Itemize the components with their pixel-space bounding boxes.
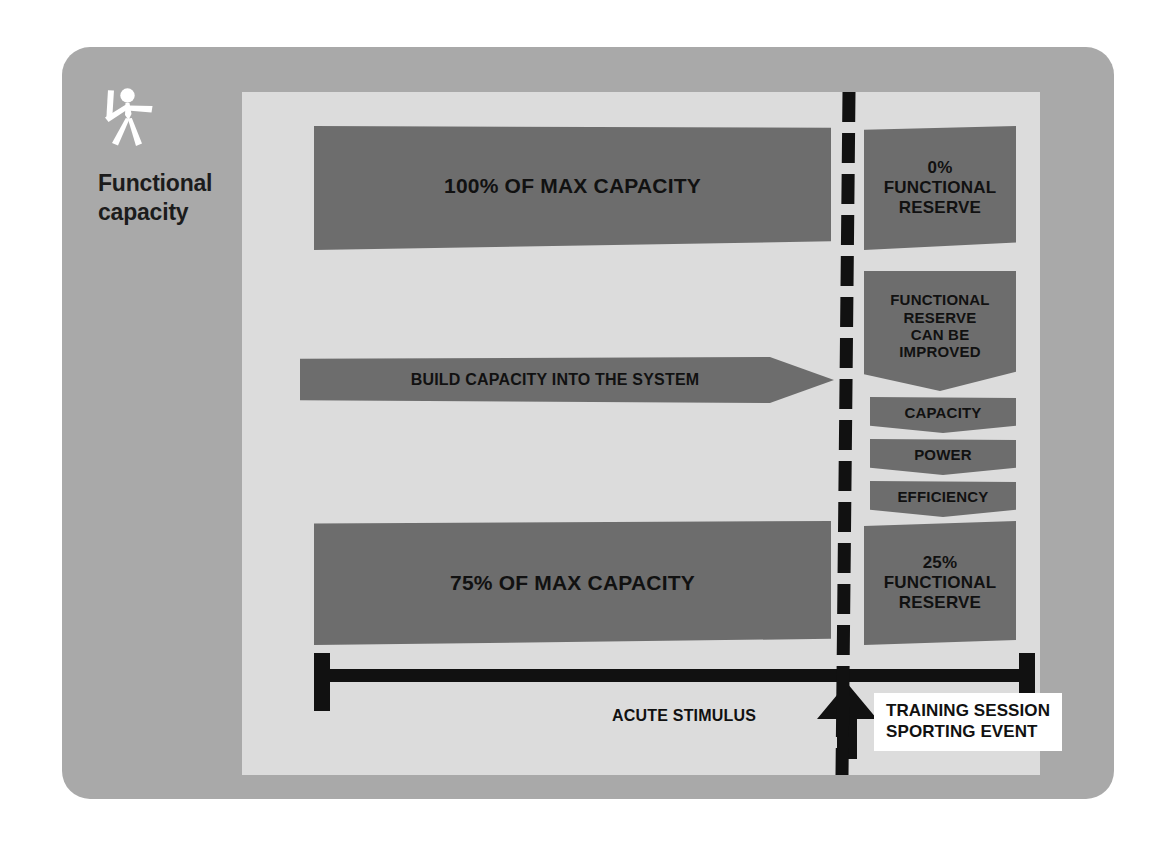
reserve-improved-block: FUNCTIONAL RESERVE CAN BE IMPROVED — [864, 271, 1016, 391]
reserve-block-0-label: 0% FUNCTIONAL RESERVE — [884, 158, 996, 217]
dashed-divider — [832, 92, 862, 775]
capacity-bar-100: 100% OF MAX CAPACITY — [314, 126, 831, 250]
slide-card: Functional capacity 100% OF MAX CAPACITY… — [62, 47, 1114, 799]
acute-stimulus-label: ACUTE STIMULUS — [612, 707, 756, 725]
improved-line1: FUNCTIONAL — [890, 291, 990, 308]
chevron-efficiency: EFFICIENCY — [870, 481, 1016, 517]
page-title-line2: capacity — [98, 199, 188, 225]
capacity-bar-75-label: 75% OF MAX CAPACITY — [450, 571, 695, 595]
reserve-block-25: 25% FUNCTIONAL RESERVE — [864, 521, 1016, 645]
left-column: Functional capacity — [98, 85, 258, 227]
build-capacity-arrow: BUILD CAPACITY INTO THE SYSTEM — [300, 357, 834, 403]
reserve-25-line3: RESERVE — [899, 593, 981, 612]
improved-line2: RESERVE — [904, 309, 977, 326]
reserve-0-line2: FUNCTIONAL — [884, 178, 996, 197]
chevron-power: POWER — [870, 439, 1016, 475]
reserve-25-line2: FUNCTIONAL — [884, 573, 996, 592]
page-title: Functional capacity — [98, 169, 238, 227]
capacity-bar-100-label: 100% OF MAX CAPACITY — [444, 174, 701, 198]
event-callout: TRAINING SESSION SPORTING EVENT — [874, 693, 1062, 751]
chevron-efficiency-label: EFFICIENCY — [897, 488, 988, 505]
improved-line4: IMPROVED — [899, 343, 981, 360]
person-stretching-icon — [98, 85, 156, 147]
build-capacity-arrow-label: BUILD CAPACITY INTO THE SYSTEM — [411, 371, 700, 390]
reserve-25-line1: 25% — [923, 553, 958, 572]
reserve-0-line3: RESERVE — [899, 198, 981, 217]
event-callout-line1: TRAINING SESSION — [886, 701, 1050, 722]
chevron-capacity: CAPACITY — [870, 397, 1016, 433]
diagram-plot-panel: 100% OF MAX CAPACITY 0% FUNCTIONAL RESER… — [242, 92, 1040, 775]
page-title-line1: Functional — [98, 170, 212, 196]
capacity-bar-75: 75% OF MAX CAPACITY — [314, 521, 831, 645]
chevron-power-label: POWER — [914, 446, 972, 463]
chevron-capacity-label: CAPACITY — [904, 404, 981, 421]
reserve-block-0: 0% FUNCTIONAL RESERVE — [864, 126, 1016, 250]
time-axis-cap-left — [314, 653, 330, 711]
reserve-block-25-label: 25% FUNCTIONAL RESERVE — [884, 553, 996, 612]
time-axis-line — [318, 669, 1030, 682]
improved-line3: CAN BE — [911, 326, 970, 343]
reserve-improved-label: FUNCTIONAL RESERVE CAN BE IMPROVED — [890, 291, 990, 361]
reserve-0-line1: 0% — [928, 158, 953, 177]
event-callout-line2: SPORTING EVENT — [886, 722, 1050, 743]
